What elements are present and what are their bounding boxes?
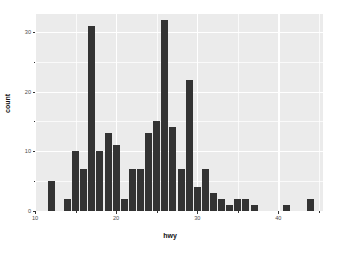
x-axis-title: hwy	[0, 232, 340, 239]
histogram-bar	[64, 199, 71, 211]
gridline-major-vertical	[197, 14, 198, 211]
y-tick-mark-minor	[34, 121, 36, 122]
y-tick-mark	[33, 32, 36, 33]
x-tick-mark	[278, 211, 279, 214]
x-tick-mark	[197, 211, 198, 214]
histogram-bar	[80, 169, 87, 211]
histogram-bar	[88, 26, 95, 211]
histogram-bar	[113, 145, 120, 211]
y-tick-mark	[33, 151, 36, 152]
y-tick-label: 30	[25, 29, 31, 35]
y-tick-mark	[33, 92, 36, 93]
histogram-bar	[218, 199, 225, 211]
x-tick-label: 30	[194, 215, 200, 221]
gridline-major-vertical	[278, 14, 279, 211]
y-tick-mark	[33, 211, 36, 212]
gridline-minor-horizontal	[35, 62, 323, 63]
histogram-bar	[48, 181, 55, 211]
y-tick-label: 20	[25, 89, 31, 95]
histogram-bar	[234, 199, 241, 211]
histogram-bar	[129, 169, 136, 211]
histogram-bar	[169, 127, 176, 211]
y-tick-label: 10	[25, 148, 31, 154]
histogram-bar	[105, 133, 112, 211]
x-tick-mark-minor	[238, 211, 239, 213]
x-tick-mark-minor	[319, 211, 320, 213]
histogram-bar	[242, 199, 249, 211]
histogram-bar	[96, 151, 103, 211]
histogram-bar	[137, 169, 144, 211]
histogram-bar	[210, 193, 217, 211]
gridline-major-vertical	[35, 14, 36, 211]
histogram-bar	[153, 121, 160, 211]
histogram-bar	[307, 199, 314, 211]
histogram-bar	[145, 133, 152, 211]
histogram-bar	[186, 80, 193, 211]
gridline-major-horizontal	[35, 32, 323, 33]
histogram-bar	[283, 205, 290, 211]
histogram-bar	[121, 199, 128, 211]
gridline-minor-horizontal	[35, 121, 323, 122]
histogram-bar	[178, 169, 185, 211]
histogram-bar	[194, 187, 201, 211]
y-axis-title: count	[4, 94, 11, 113]
x-tick-mark-minor	[76, 211, 77, 213]
histogram-bar	[161, 20, 168, 211]
x-tick-label: 40	[275, 215, 281, 221]
histogram-plot: 10203040 0102030 hwy count	[0, 0, 340, 253]
histogram-bar	[72, 151, 79, 211]
x-tick-mark-minor	[157, 211, 158, 213]
x-tick-label: 20	[113, 215, 119, 221]
y-tick-label: 0	[28, 208, 31, 214]
histogram-bar	[251, 205, 258, 211]
x-tick-mark	[116, 211, 117, 214]
x-tick-mark	[35, 211, 36, 214]
x-tick-label: 10	[32, 215, 38, 221]
y-tick-mark-minor	[34, 62, 36, 63]
histogram-bar	[202, 169, 209, 211]
gridline-major-horizontal	[35, 92, 323, 93]
histogram-bar	[226, 205, 233, 211]
y-tick-mark-minor	[34, 181, 36, 182]
plot-panel	[35, 14, 323, 211]
